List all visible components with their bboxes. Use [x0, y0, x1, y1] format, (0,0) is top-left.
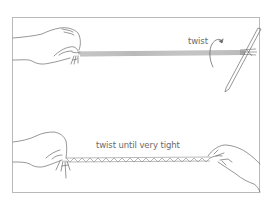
line-art [0, 0, 272, 204]
bottom-right-hand-drawing [208, 145, 260, 192]
pencil-drawing [225, 28, 261, 92]
top-left-hand-drawing [13, 28, 80, 64]
top-strands [78, 51, 245, 57]
bottom-twisted-cord [66, 157, 210, 162]
twist-until-tight-label: twist until very tight [96, 141, 180, 150]
bottom-left-hand-drawing [13, 132, 70, 178]
twist-label: twist [188, 37, 208, 46]
twist-cord-illustration: twist twist until very tight [0, 0, 272, 204]
